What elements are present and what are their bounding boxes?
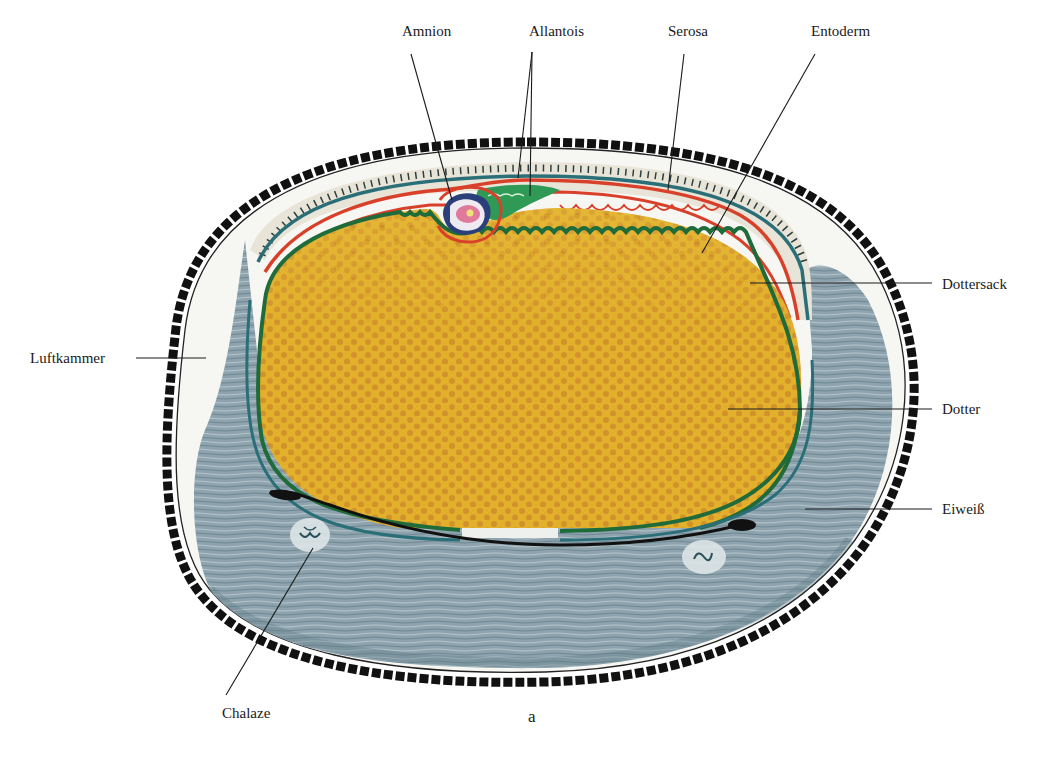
label-entoderm: Entoderm [811,24,870,39]
label-amnion: Amnion [402,24,451,39]
panel-label: a [528,708,536,725]
label-luftkammer: Luftkammer [30,351,105,366]
egg-diagram: Amnion Allantois Serosa Entoderm Dotters… [0,0,1054,760]
yolk-gap [462,528,558,538]
label-dottersack: Dottersack [942,277,1007,292]
label-eiweiss: Eiweiß [942,502,985,517]
label-serosa: Serosa [668,24,708,39]
egg-cross-section [0,0,1054,760]
label-chalaze: Chalaze [222,706,270,721]
chalaze-right [682,540,726,574]
label-allantois: Allantois [529,24,584,39]
label-dotter: Dotter [942,402,980,417]
chalaze-left [290,518,330,552]
